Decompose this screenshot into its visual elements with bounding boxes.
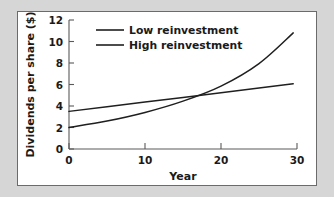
- figure-root: 0 2 4 6 8 10 12 0 10 20 30: [0, 0, 334, 197]
- legend-label-high-reinvestment: High reinvestment: [129, 39, 242, 52]
- x-tick-label-20: 20: [214, 154, 229, 166]
- x-tick-labels: 0 10 20 30: [65, 154, 304, 166]
- y-tick-labels: 0 2 4 6 8 10 12: [48, 14, 63, 155]
- x-axis-title: Year: [168, 170, 197, 183]
- line-chart: 0 2 4 6 8 10 12 0 10 20 30: [18, 12, 316, 185]
- x-tick-label-10: 10: [138, 154, 153, 166]
- y-tick-label-6: 6: [56, 79, 63, 91]
- chart-panel: 0 2 4 6 8 10 12 0 10 20 30: [17, 11, 317, 186]
- y-tick-label-12: 12: [48, 14, 63, 26]
- y-axis-title: Dividends per share ($): [24, 12, 37, 158]
- y-tick-marks: [69, 20, 74, 149]
- y-tick-label-8: 8: [56, 57, 63, 69]
- y-tick-label-4: 4: [56, 100, 63, 112]
- y-tick-label-2: 2: [56, 122, 63, 134]
- legend-label-low-reinvestment: Low reinvestment: [129, 24, 238, 37]
- x-tick-marks: [69, 143, 297, 149]
- chart-legend: Low reinvestment High reinvestment: [96, 24, 242, 52]
- y-tick-label-10: 10: [48, 36, 63, 48]
- series-line-low-reinvestment: [69, 84, 293, 112]
- x-tick-label-0: 0: [65, 154, 72, 166]
- x-tick-label-30: 30: [290, 154, 305, 166]
- y-tick-label-0: 0: [56, 143, 63, 155]
